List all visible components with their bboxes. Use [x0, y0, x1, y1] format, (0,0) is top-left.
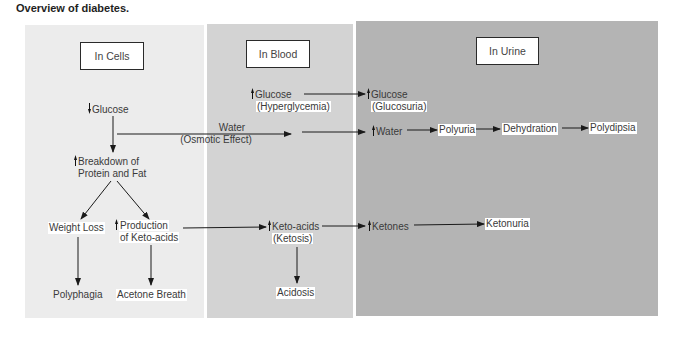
- increase-arrow-icon: [74, 155, 77, 166]
- increase-arrow-icon: [251, 88, 254, 99]
- node-blood-glucose: Glucose (Hyperglycemia): [251, 88, 331, 113]
- node-urine-water: Water: [372, 125, 402, 138]
- increase-arrow-icon: [115, 219, 118, 230]
- diabetes-overview-diagram: Overview of diabetes. In Cells In Blood …: [0, 0, 679, 337]
- node-acidosis: Acidosis: [276, 287, 315, 299]
- node-polyphagia: Polyphagia: [53, 289, 102, 301]
- increase-arrow-icon: [367, 88, 370, 99]
- node-water-osmotic: Water (Osmotic Effect): [165, 122, 275, 146]
- node-urine-glucose: Glucose (Glucosuria): [367, 88, 427, 113]
- node-polyuria: Polyuria: [438, 124, 476, 136]
- node-keto-acids: Keto-acids (Ketosis): [268, 220, 319, 245]
- node-dehydration: Dehydration: [502, 123, 558, 135]
- node-polydipsia: Polydipsia: [589, 122, 637, 134]
- increase-arrow-icon: [372, 125, 375, 136]
- node-cells-glucose: Glucose: [88, 103, 129, 116]
- node-acetone-breath: Acetone Breath: [116, 289, 187, 301]
- node-ketonuria: Ketonuria: [485, 218, 530, 230]
- node-weight-loss: Weight Loss: [48, 222, 105, 234]
- decrease-arrow-icon: [88, 103, 91, 114]
- increase-arrow-icon: [268, 220, 271, 231]
- increase-arrow-icon: [368, 220, 371, 231]
- node-breakdown: Breakdown of Protein and Fat: [74, 155, 146, 180]
- node-ketones: Ketones: [368, 220, 409, 233]
- node-production: Production of Keto-acids: [115, 219, 179, 244]
